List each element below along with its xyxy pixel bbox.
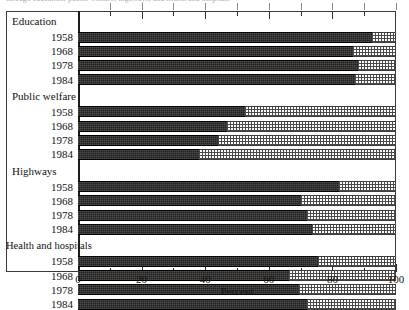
axis-tick bbox=[396, 264, 397, 272]
row-label-1968: 1968 bbox=[1, 196, 78, 207]
group-heading-education: Education bbox=[12, 16, 84, 27]
bar-highways-1958 bbox=[78, 181, 396, 192]
row-label-1968: 1968 bbox=[1, 121, 78, 132]
bar-education-1958 bbox=[78, 32, 396, 43]
bar-segment-dark bbox=[78, 46, 353, 57]
row-label-1984: 1984 bbox=[1, 299, 78, 310]
bar-segment-light bbox=[339, 181, 396, 192]
bar-segment-dark bbox=[78, 256, 318, 267]
bar-segment-light bbox=[199, 149, 396, 160]
row-label-1978: 1978 bbox=[1, 60, 78, 71]
row-label-1958: 1958 bbox=[1, 107, 78, 118]
bar-segment-light bbox=[358, 60, 396, 71]
bar-segment-light bbox=[355, 74, 396, 85]
bar-segment-dark bbox=[78, 299, 307, 310]
row-label-1958: 1958 bbox=[1, 256, 78, 267]
axis-tick bbox=[237, 3, 238, 10]
bar-segment-dark bbox=[78, 121, 227, 132]
group-heading-health-and-hospitals: Health and hospitals bbox=[6, 240, 82, 251]
axis-tick bbox=[173, 3, 174, 10]
row-label-1984: 1984 bbox=[1, 224, 78, 235]
axis-tick bbox=[332, 3, 333, 10]
row-label-1958: 1958 bbox=[1, 182, 78, 193]
clipped-caption-text: through education; public welfare; highw… bbox=[6, 0, 406, 3]
row-label-1984: 1984 bbox=[1, 75, 78, 86]
axis-tick bbox=[142, 3, 143, 10]
row-label-1978: 1978 bbox=[1, 285, 78, 296]
axis-tick bbox=[110, 3, 111, 10]
bar-segment-dark bbox=[78, 210, 307, 221]
bar-segment-light bbox=[227, 121, 396, 132]
group-heading-public-welfare: Public welfare bbox=[12, 91, 84, 102]
bar-highways-1978 bbox=[78, 210, 396, 221]
bar-segment-dark bbox=[78, 106, 245, 117]
bar-education-1978 bbox=[78, 60, 396, 71]
bar-segment-light bbox=[312, 224, 396, 235]
bar-segment-light bbox=[301, 195, 396, 206]
bar-highways-1968 bbox=[78, 195, 396, 206]
bar-segment-dark bbox=[78, 74, 355, 85]
bar-segment-dark bbox=[78, 149, 199, 160]
bar-segment-dark bbox=[78, 32, 372, 43]
bar-highways-1984 bbox=[78, 224, 396, 235]
x-tick-label-20: 20 bbox=[122, 274, 162, 285]
bar-public-welfare-1958 bbox=[78, 106, 396, 117]
row-label-1968: 1968 bbox=[1, 46, 78, 57]
group-heading-highways: Highways bbox=[12, 166, 84, 177]
x-axis-title: Percent bbox=[177, 286, 297, 297]
bar-segment-light bbox=[353, 46, 396, 57]
bar-segment-dark bbox=[78, 195, 301, 206]
bar-segment-light bbox=[307, 299, 396, 310]
category-label-column: 1958196819781984195819681978198419581968… bbox=[6, 11, 78, 272]
bar-segment-light bbox=[307, 210, 396, 221]
bar-segment-light bbox=[245, 106, 396, 117]
bar-segment-dark bbox=[78, 224, 312, 235]
bar-segment-light bbox=[218, 135, 396, 146]
x-tick-label-40: 40 bbox=[185, 274, 225, 285]
x-tick-label-60: 60 bbox=[249, 274, 289, 285]
row-label-1978: 1978 bbox=[1, 210, 78, 221]
bar-segment-light bbox=[318, 256, 396, 267]
row-label-1958: 1958 bbox=[1, 32, 78, 43]
axis-tick bbox=[205, 3, 206, 10]
x-tick-label-80: 80 bbox=[312, 274, 352, 285]
bar-health-and-hospitals-1958 bbox=[78, 256, 396, 267]
bar-segment-light bbox=[299, 284, 396, 295]
bar-health-and-hospitals-1984 bbox=[78, 299, 396, 310]
axis-tick bbox=[269, 3, 270, 10]
axis-tick bbox=[396, 3, 397, 10]
row-label-1978: 1978 bbox=[1, 135, 78, 146]
bar-public-welfare-1984 bbox=[78, 149, 396, 160]
axis-tick bbox=[301, 3, 302, 10]
bar-public-welfare-1968 bbox=[78, 121, 396, 132]
bar-segment-light bbox=[372, 32, 396, 43]
bar-education-1984 bbox=[78, 74, 396, 85]
axis-tick bbox=[364, 3, 365, 10]
bar-segment-dark bbox=[78, 181, 339, 192]
x-tick-label-100: 100 bbox=[376, 274, 409, 285]
bar-segment-dark bbox=[78, 60, 358, 71]
bar-education-1968 bbox=[78, 46, 396, 57]
bar-public-welfare-1978 bbox=[78, 135, 396, 146]
x-tick-label-0: 0 bbox=[58, 274, 98, 285]
row-label-1984: 1984 bbox=[1, 149, 78, 160]
bar-segment-dark bbox=[78, 135, 218, 146]
